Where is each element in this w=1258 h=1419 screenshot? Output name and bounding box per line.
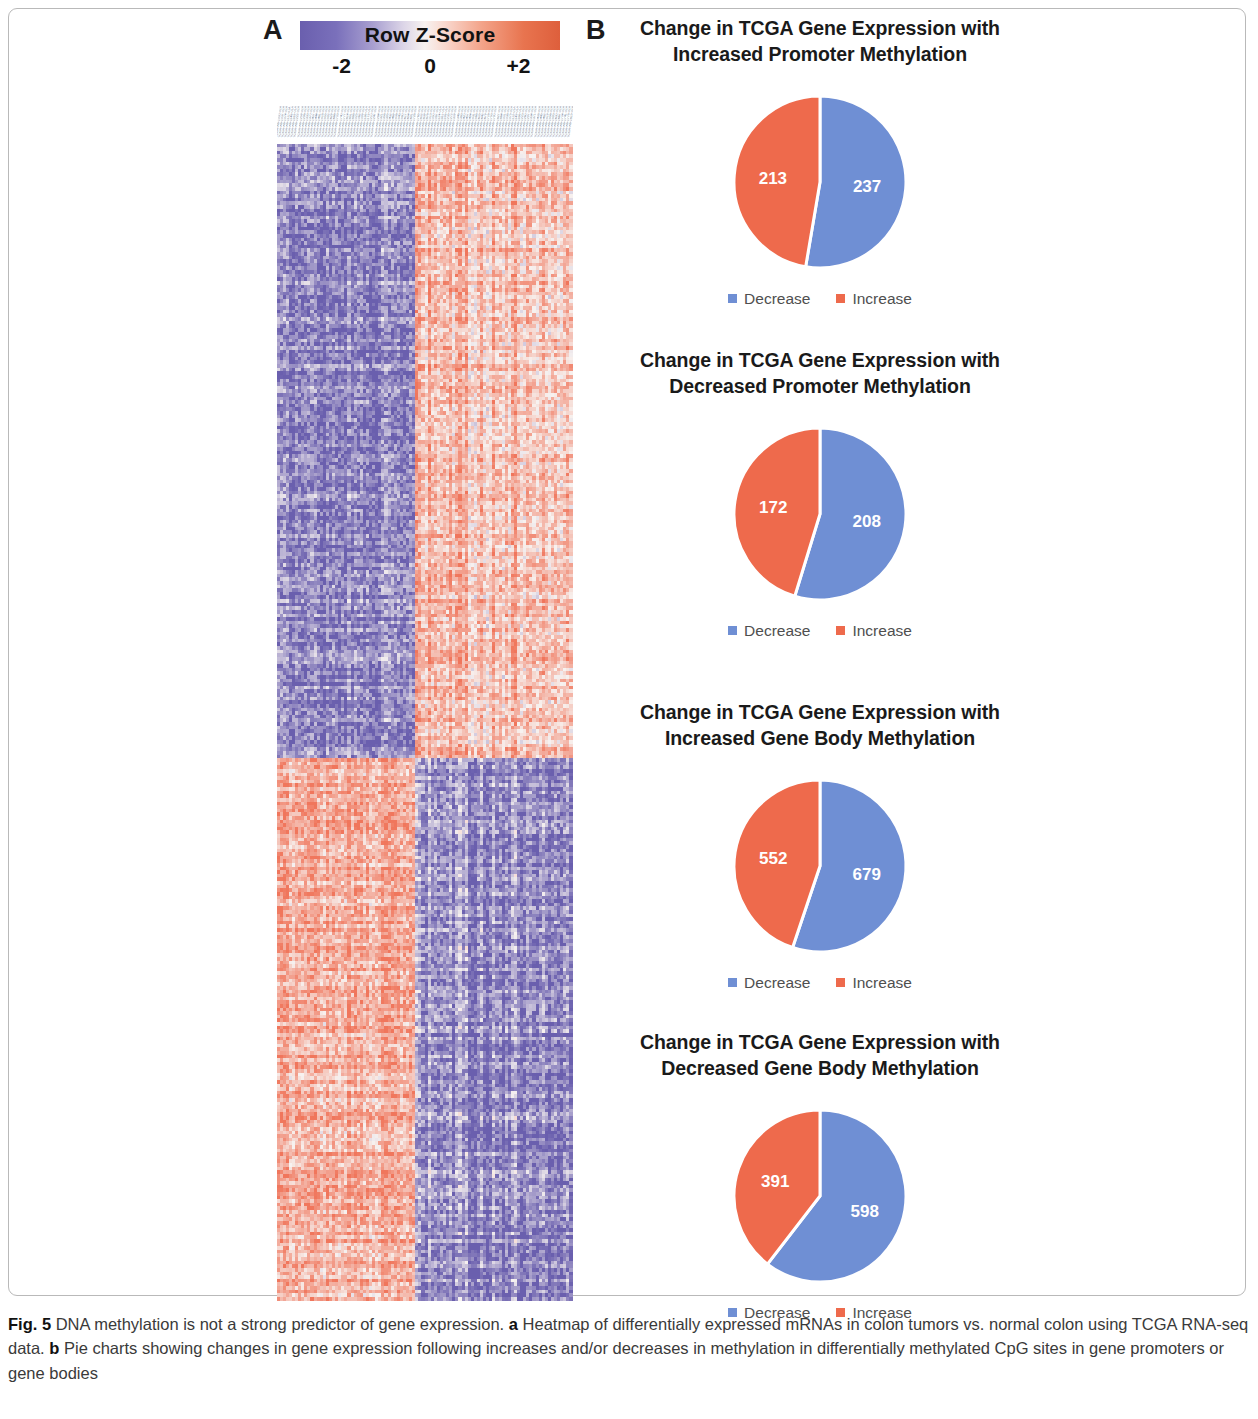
pie-legend: Decrease Increase: [600, 622, 1040, 640]
pie-area: 598391: [600, 1092, 1040, 1300]
legend-item-decrease: Decrease: [728, 974, 810, 992]
pie-title-line-1: Change in TCGA Gene Expression with: [600, 348, 1040, 374]
legend-label-increase: Increase: [852, 974, 911, 992]
legend-label-decrease: Decrease: [744, 974, 810, 992]
legend-label-increase: Increase: [852, 290, 911, 308]
legend-item-increase: Increase: [836, 290, 911, 308]
pie-title-line-1: Change in TCGA Gene Expression with: [600, 1030, 1040, 1056]
legend-swatch-increase-icon: [836, 294, 845, 303]
pie-title-line-1: Change in TCGA Gene Expression with: [600, 16, 1040, 42]
pie-slice-value-increase: 552: [759, 849, 787, 868]
heatmap-panel: [277, 144, 573, 1301]
pie-chart: 679552: [600, 762, 1040, 970]
caption-text-1: DNA methylation is not a strong predicto…: [51, 1315, 509, 1333]
pie-title-line-2: Increased Gene Body Methylation: [600, 726, 1040, 752]
pie-title: Change in TCGA Gene Expression with Decr…: [600, 1030, 1040, 1082]
pie-title-line-1: Change in TCGA Gene Expression with: [600, 700, 1040, 726]
heatmap-colorbar: Row Z-Score -2 0 +2: [300, 21, 560, 84]
pie-chart-block-decreased-promoter: Change in TCGA Gene Expression with Decr…: [600, 348, 1040, 640]
pie-chart-block-decreased-gene-body: Change in TCGA Gene Expression with Decr…: [600, 1030, 1040, 1322]
caption-figure-number: Fig. 5: [8, 1315, 51, 1333]
pie-chart: 208172: [600, 410, 1040, 618]
caption-text-3: Pie charts showing changes in gene expre…: [8, 1339, 1224, 1381]
pie-title-line-2: Decreased Promoter Methylation: [600, 374, 1040, 400]
legend-item-increase: Increase: [836, 974, 911, 992]
colorbar-gradient: Row Z-Score: [300, 21, 560, 50]
pie-title: Change in TCGA Gene Expression with Incr…: [600, 700, 1040, 752]
pie-area: 679552: [600, 762, 1040, 970]
legend-item-decrease: Decrease: [728, 290, 810, 308]
pie-slice-value-increase: 172: [759, 498, 787, 517]
colorbar-tick-low: -2: [332, 54, 351, 78]
pie-slice-value-decrease: 208: [853, 512, 881, 531]
heatmap-image: [277, 144, 573, 1301]
pie-chart: 598391: [600, 1092, 1040, 1300]
colorbar-tick-mid: 0: [424, 54, 436, 78]
pie-legend: Decrease Increase: [600, 290, 1040, 308]
pie-chart-block-increased-promoter: Change in TCGA Gene Expression with Incr…: [600, 16, 1040, 308]
pie-title-line-2: Decreased Gene Body Methylation: [600, 1056, 1040, 1082]
legend-item-increase: Increase: [836, 622, 911, 640]
caption-panel-a-marker: a: [509, 1315, 518, 1333]
figure-caption: Fig. 5 DNA methylation is not a strong p…: [8, 1312, 1250, 1385]
legend-label-decrease: Decrease: [744, 622, 810, 640]
legend-swatch-decrease-icon: [728, 978, 737, 987]
panel-a-label: A: [263, 15, 283, 46]
pie-area: 237213: [600, 78, 1040, 286]
pie-slice-value-decrease: 598: [851, 1202, 879, 1221]
caption-panel-b-marker: b: [49, 1339, 59, 1357]
legend-swatch-increase-icon: [836, 626, 845, 635]
legend-swatch-decrease-icon: [728, 294, 737, 303]
colorbar-tick-labels: -2 0 +2: [300, 54, 560, 84]
pie-slice-value-decrease: 679: [853, 864, 881, 883]
legend-label-decrease: Decrease: [744, 290, 810, 308]
legend-swatch-increase-icon: [836, 978, 845, 987]
pie-title-line-2: Increased Promoter Methylation: [600, 42, 1040, 68]
pie-slice-value-increase: 391: [761, 1172, 789, 1191]
colorbar-tick-high: +2: [506, 54, 530, 78]
pie-area: 208172: [600, 410, 1040, 618]
pie-chart: 237213: [600, 78, 1040, 286]
legend-label-increase: Increase: [852, 622, 911, 640]
heatmap-column-labels: TCGA-A6-1000-01ATCGA-A6-1037-01ATCGA-A6-…: [277, 104, 573, 144]
legend-swatch-decrease-icon: [728, 626, 737, 635]
pie-title: Change in TCGA Gene Expression with Decr…: [600, 348, 1040, 400]
pie-slice-value-decrease: 237: [853, 177, 881, 196]
legend-item-decrease: Decrease: [728, 622, 810, 640]
pie-title: Change in TCGA Gene Expression with Incr…: [600, 16, 1040, 68]
colorbar-title: Row Z-Score: [300, 23, 560, 47]
pie-chart-block-increased-gene-body: Change in TCGA Gene Expression with Incr…: [600, 700, 1040, 992]
pie-slice-value-increase: 213: [759, 169, 787, 188]
pie-legend: Decrease Increase: [600, 974, 1040, 992]
